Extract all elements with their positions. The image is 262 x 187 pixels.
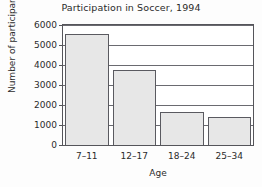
x-tick-label-25–34: 25–34 bbox=[216, 151, 243, 161]
y-tick-mark-4000 bbox=[59, 65, 63, 66]
bar-25–34 bbox=[208, 117, 252, 145]
bar-7–11 bbox=[65, 34, 109, 145]
bar-18–24 bbox=[160, 112, 204, 145]
y-axis-title: Number of participants bbox=[7, 0, 17, 101]
y-tick-label-2000: 2000 bbox=[34, 101, 57, 110]
chart-title: Participation in Soccer, 1994 bbox=[0, 2, 262, 13]
bar-chart-figure: Participation in Soccer, 1994 Number of … bbox=[0, 0, 262, 187]
plot-area: 01000200030004000500060007–1112–1718–242… bbox=[62, 24, 254, 146]
bar-12–17 bbox=[113, 70, 157, 145]
y-tick-label-6000: 6000 bbox=[34, 21, 57, 30]
gridline-6000 bbox=[63, 25, 253, 26]
y-tick-mark-3000 bbox=[59, 85, 63, 86]
y-tick-label-0: 0 bbox=[51, 141, 57, 150]
y-tick-mark-6000 bbox=[59, 25, 63, 26]
y-tick-label-5000: 5000 bbox=[34, 41, 57, 50]
y-tick-mark-1000 bbox=[59, 125, 63, 126]
x-tick-label-7–11: 7–11 bbox=[76, 151, 98, 161]
x-axis-title: Age bbox=[58, 168, 258, 178]
y-tick-label-4000: 4000 bbox=[34, 61, 57, 70]
x-tick-label-12–17: 12–17 bbox=[121, 151, 148, 161]
y-tick-label-3000: 3000 bbox=[34, 81, 57, 90]
x-tick-label-18–24: 18–24 bbox=[168, 151, 195, 161]
y-tick-mark-2000 bbox=[59, 105, 63, 106]
y-tick-label-1000: 1000 bbox=[34, 121, 57, 130]
y-tick-mark-5000 bbox=[59, 45, 63, 46]
y-tick-mark-0 bbox=[59, 145, 63, 146]
